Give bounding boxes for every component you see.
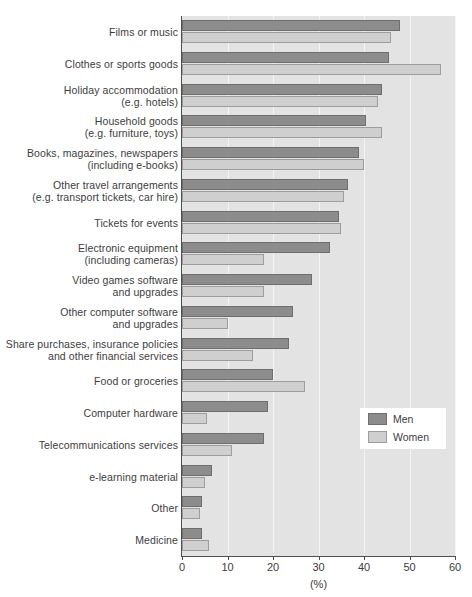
bar-men [182,52,389,63]
category-label: Video games softwareand upgrades [0,274,178,298]
category-label-line2: (e.g. transport tickets, car hire) [0,191,178,203]
category-label-line1: Films or music [109,26,178,38]
tick-mark-50 [410,556,411,560]
category-label-line1: Tickets for events [94,217,178,229]
category-label-line2: (including e-books) [0,159,178,171]
category-label: Holiday accommodation(e.g. hotels) [0,84,178,108]
bar-men [182,401,268,412]
bar-men [182,179,348,190]
category-label-line1: Household goods [95,115,178,127]
bar-women [182,540,209,551]
bar-women [182,350,253,361]
x-tick-label-60: 60 [440,561,470,573]
category-label: Telecommunications services [0,439,178,451]
category-label-line1: Books, magazines, newspapers [27,147,178,159]
category-label-line1: Medicine [135,534,178,546]
bar-men [182,242,330,253]
bar-men [182,115,366,126]
category-label: Household goods(e.g. furniture, toys) [0,115,178,139]
x-tick-label-20: 20 [258,561,288,573]
legend-label-women: Women [393,431,429,443]
category-label: Other travel arrangements(e.g. transport… [0,179,178,203]
category-label-line1: e-learning material [89,471,178,483]
bar-chart: 0102030405060 Films or musicClothes or s… [0,0,472,597]
bar-row: Books, magazines, newspapers(including e… [0,143,472,175]
category-label-line1: Electronic equipment [78,242,178,254]
bar-women [182,413,207,424]
category-label-line1: Other [151,502,178,514]
bar-women [182,64,441,75]
tick-mark-60 [455,556,456,560]
bar-row: Medicine [0,524,472,556]
bar-row: Tickets for events [0,207,472,239]
x-tick-label-50: 50 [395,561,425,573]
x-tick-label-30: 30 [304,561,334,573]
bar-men [182,433,264,444]
category-label-line1: Other computer software [60,306,178,318]
category-label-line1: Other travel arrangements [53,179,178,191]
bar-row: Other travel arrangements(e.g. transport… [0,175,472,207]
bar-men [182,369,273,380]
bar-women [182,32,391,43]
chart-legend: Men Women [360,408,446,449]
category-label-line1: Holiday accommodation [64,84,178,96]
legend-item-men: Men [368,412,413,426]
category-label-line2: and upgrades [0,318,178,330]
category-label: Medicine [0,534,178,546]
x-tick-label-10: 10 [213,561,243,573]
bar-row: Holiday accommodation(e.g. hotels) [0,80,472,112]
category-label-line2: (e.g. furniture, toys) [0,127,178,139]
x-tick-label-0: 0 [167,561,197,573]
tick-mark-40 [364,556,365,560]
bar-women [182,318,228,329]
category-label: Other [0,502,178,514]
bar-women [182,127,382,138]
x-tick-label-40: 40 [349,561,379,573]
bar-women [182,477,205,488]
legend-swatch-women-icon [368,431,387,443]
legend-swatch-men-icon [368,413,387,425]
legend-item-women: Women [368,430,429,444]
category-label: e-learning material [0,471,178,483]
bar-men [182,465,212,476]
category-label: Computer hardware [0,407,178,419]
bar-men [182,211,339,222]
bar-women [182,445,232,456]
category-label: Films or music [0,26,178,38]
tick-mark-10 [228,556,229,560]
category-label: Books, magazines, newspapers(including e… [0,147,178,171]
category-label-line2: and upgrades [0,286,178,298]
bar-row: Household goods(e.g. furniture, toys) [0,111,472,143]
bar-men [182,528,202,539]
bar-row: Share purchases, insurance policiesand o… [0,334,472,366]
tick-mark-0 [182,556,183,560]
bar-men [182,84,382,95]
bar-women [182,254,264,265]
bar-women [182,223,341,234]
category-label-line1: Clothes or sports goods [65,58,178,70]
category-label-line2: and other financial services [0,350,178,362]
bar-women [182,96,378,107]
bar-men [182,338,289,349]
legend-label-men: Men [393,413,413,425]
bar-women [182,286,264,297]
bar-men [182,147,359,158]
category-label: Other computer softwareand upgrades [0,306,178,330]
bar-row: Food or groceries [0,365,472,397]
category-label: Tickets for events [0,217,178,229]
bar-row: Video games softwareand upgrades [0,270,472,302]
category-label: Clothes or sports goods [0,58,178,70]
bar-men [182,496,202,507]
category-label-line1: Video games software [72,274,178,286]
bar-row: Clothes or sports goods [0,48,472,80]
category-label-line1: Computer hardware [84,407,179,419]
category-label: Food or groceries [0,375,178,387]
bar-row: Films or music [0,16,472,48]
tick-mark-30 [319,556,320,560]
bar-row: Other computer softwareand upgrades [0,302,472,334]
category-label-line1: Share purchases, insurance policies [6,338,178,350]
category-label-line1: Telecommunications services [39,439,178,451]
category-label: Share purchases, insurance policiesand o… [0,338,178,362]
bar-women [182,508,200,519]
bar-row: Electronic equipment(including cameras) [0,238,472,270]
